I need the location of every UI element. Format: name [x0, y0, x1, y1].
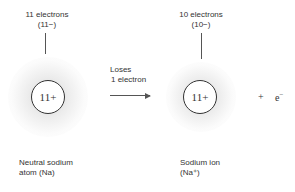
right-electrons-label: 10 electrons	[176, 10, 226, 20]
left-nucleus: 11+	[31, 80, 65, 114]
right-caption-line1: Sodium ion	[180, 158, 220, 168]
right-caption-line2: (Na⁺)	[180, 168, 200, 178]
arrow-label-line1: Loses	[110, 65, 131, 75]
left-pointer-line	[45, 33, 46, 54]
left-nucleus-label: 11+	[40, 91, 57, 103]
left-electrons-label: 11 electrons	[22, 10, 72, 20]
left-charge-label: (11−)	[22, 20, 72, 30]
right-nucleus-label: 11+	[192, 91, 209, 103]
right-pointer-line	[201, 33, 202, 59]
electron-symbol: e−	[275, 91, 283, 103]
left-caption-line1: Neutral sodium	[19, 158, 73, 168]
reaction-arrow	[110, 95, 150, 96]
plus-sign: +	[258, 91, 264, 102]
left-caption-line2: atom (Na)	[19, 168, 55, 178]
electron-charge: −	[279, 91, 283, 99]
right-charge-label: (10−)	[176, 20, 226, 30]
right-nucleus: 11+	[183, 80, 217, 114]
arrow-label-line2: 1 electron	[111, 75, 146, 85]
